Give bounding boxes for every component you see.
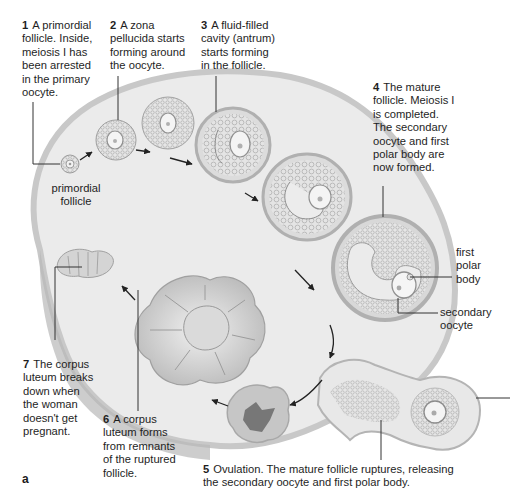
step-4-number: 4 [373,81,379,93]
corpus-albicans [57,249,113,277]
follicle-antrum-enlarged [263,154,351,240]
step-5-label: 5Ovulation. The mature follicle ruptures… [203,463,503,490]
step-1-label: 1A primordial follicle. Inside, meiosis … [22,19,122,99]
step-3-label: 3A fluid-filled cavity (antrum) starts f… [201,19,311,73]
ovulation-rupture [318,360,480,450]
follicle-antrum-forming [196,108,270,182]
early-corpus-luteum [227,385,289,442]
step-4-label: 4The mature follicle. Meiosis I is compl… [373,81,493,175]
step-6-text: A corpus luteum forms from remnants of t… [103,413,176,479]
follicle-growing [142,97,194,149]
first-polar-body-label: first polar body [456,246,506,286]
step-6-label: 6A corpus luteum forms from remnants of … [103,413,193,480]
mature-follicle [333,216,437,320]
follicle-zona-pellucida [96,120,136,160]
step-5-number: 5 [203,463,209,475]
step-7-number: 7 [23,358,29,370]
step-2-number: 2 [110,19,116,31]
step-5-text: Ovulation. The mature follicle ruptures,… [203,463,454,488]
panel-letter: a [22,472,29,486]
step-3-text: A fluid-filled cavity (antrum) starts fo… [201,19,275,71]
primordial-follicle [61,155,79,173]
primordial-follicle-label: primordial follicle [46,182,106,209]
step-7-text: The corpus luteum breaks down when the w… [23,358,93,437]
secondary-oocyte-label: secondary oocyte [440,306,510,333]
step-1-number: 1 [22,19,28,31]
step-2-label: 2A zona pellucida starts forming around … [110,19,210,73]
step-1-text: A primordial follicle. Inside, meiosis I… [22,19,92,98]
step-2-text: A zona pellucida starts forming around t… [110,19,185,71]
step-6-number: 6 [103,413,109,425]
step-3-number: 3 [201,19,207,31]
step-7-label: 7The corpus luteum breaks down when the … [23,358,103,438]
step-4-text: The mature follicle. Meiosis I is comple… [373,81,454,173]
